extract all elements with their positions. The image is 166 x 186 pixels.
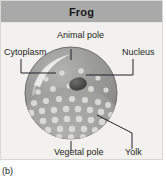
label-cytoplasm: Cytoplasm [4,48,47,57]
panel-title: Frog [69,6,94,18]
figure-caption: (b) [2,166,13,176]
label-vegetal-pole: Vegetal pole [54,148,104,157]
figure-frog-egg: Frog [0,0,166,186]
label-nucleus: Nucleus [122,48,155,57]
egg-illustration [1,23,163,160]
label-yolk: Yolk [125,148,142,157]
figure-panel: Frog [0,0,163,160]
panel-header: Frog [1,1,162,23]
label-animal-pole: Animal pole [57,31,104,40]
egg-diagram [1,23,163,160]
